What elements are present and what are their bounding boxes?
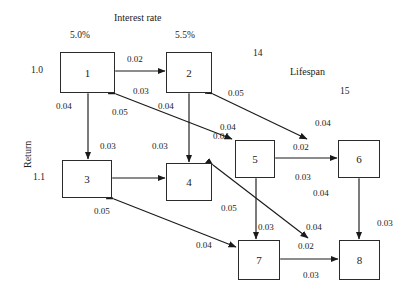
- node-label: 4: [186, 176, 192, 188]
- node-label: 6: [356, 153, 362, 165]
- return-axis-title: Return: [22, 141, 33, 168]
- edge-rate-r-7-8-bwd: 0.03: [303, 270, 319, 280]
- interest-rate-tick-5-0: 5.0%: [70, 30, 90, 40]
- edge-rate-r-6-8-fwd: 0.04: [313, 188, 329, 198]
- node-box-1[interactable]: 1: [60, 52, 115, 93]
- node-label: 5: [252, 153, 258, 165]
- edge-3-8: [114, 199, 236, 247]
- edge-rate-r-2-4-fwd: 0.04: [158, 101, 174, 111]
- node-label: 2: [186, 67, 192, 79]
- interest-rate-axis-title: Interest rate: [114, 12, 161, 23]
- edge-rate-r-1-3-fwd: 0.04: [56, 101, 72, 111]
- edge-rate-r-3-8-bwd: 0.05: [94, 206, 110, 216]
- lifespan-axis-title: Lifespan: [290, 66, 325, 77]
- return-tick-1-1: 1.1: [33, 172, 45, 182]
- edge-rate-r-7-8-fwd: 0.02: [298, 241, 314, 251]
- edge-rate-r-3-8-fwd: 0.04: [196, 240, 212, 250]
- node-box-3[interactable]: 3: [62, 160, 112, 198]
- node-label: 8: [357, 254, 363, 266]
- node-box-2[interactable]: 2: [166, 52, 212, 93]
- edge-rate-r-5-6-diag: 0.04: [315, 118, 331, 128]
- node-box-4[interactable]: 4: [166, 163, 212, 201]
- node-box-6[interactable]: 6: [338, 140, 380, 178]
- edge-rate-r-1-5-bwd: 0.05: [112, 107, 128, 117]
- edge-rate-r-5-7-bwd: 0.03: [258, 222, 274, 232]
- lifespan-tick-14: 14: [253, 48, 263, 58]
- edge-rate-r-2-5-bwd: 0.05: [228, 88, 244, 98]
- edge-rate-r-6-8-bwd: 0.03: [377, 218, 393, 228]
- edge-rate-r-2-4-bwd: 0.03: [152, 141, 168, 151]
- interest-rate-tick-5-5: 5.5%: [175, 30, 195, 40]
- edge-rate-r-1-2-fwd: 0.02: [127, 54, 143, 64]
- lifespan-tick-15: 15: [340, 86, 350, 96]
- edge-rate-r-5-6-fwd: 0.02: [293, 142, 309, 152]
- edge-rate-r-1-2-bwd: 0.03: [133, 86, 149, 96]
- edge-rate-r-4-7-bwd: 0.05: [221, 203, 237, 213]
- diagram-canvas: 1 2 3 4 5 6 7 8 0.02 0.03 0.04 0.03 0.05…: [0, 0, 401, 298]
- node-label: 3: [84, 173, 90, 185]
- edge-rate-r-4-7-fwd: 0.04: [306, 222, 322, 232]
- node-label: 1: [85, 67, 91, 79]
- edge-rate-r-5-6-bwd: 0.03: [295, 172, 311, 182]
- edge-rate-r-5-7-fwd: 0.04: [213, 131, 229, 141]
- return-tick-1-0: 1.0: [31, 65, 43, 75]
- node-label: 7: [256, 254, 262, 266]
- node-box-5[interactable]: 5: [235, 140, 275, 178]
- node-box-8[interactable]: 8: [339, 240, 380, 280]
- node-box-7[interactable]: 7: [238, 240, 280, 280]
- edge-rate-r-1-3-bwd: 0.03: [100, 141, 116, 151]
